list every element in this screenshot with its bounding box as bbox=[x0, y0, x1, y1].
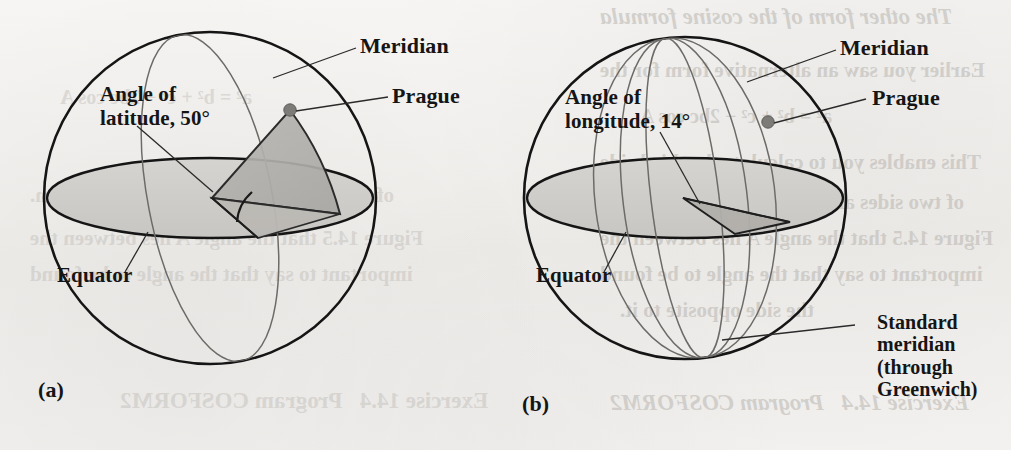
leader-line-meridian-a bbox=[273, 48, 356, 78]
label-prague-b: Prague bbox=[872, 86, 940, 111]
prague-dot-b bbox=[762, 116, 774, 128]
label-angle-longitude-line1-b: Angle of bbox=[565, 86, 690, 110]
sphere-a-group bbox=[44, 23, 388, 373]
label-angle-longitude-b: Angle of longitude, 14° bbox=[565, 86, 690, 133]
globe-diagram-svg bbox=[0, 0, 1011, 450]
label-standard-meridian-line4: Greenwich) bbox=[877, 378, 978, 400]
label-standard-meridian-line2: meridian bbox=[877, 333, 978, 355]
label-meridian-b: Meridian bbox=[840, 36, 929, 61]
label-angle-latitude-line1-a: Angle of bbox=[100, 83, 210, 107]
caption-b: (b) bbox=[522, 392, 549, 417]
prague-dot-a bbox=[284, 104, 296, 116]
sphere-b-group bbox=[524, 27, 866, 369]
label-meridian-a: Meridian bbox=[360, 34, 449, 59]
label-angle-longitude-line2-b: longitude, 14° bbox=[565, 110, 690, 134]
label-standard-meridian-line3: (through bbox=[877, 356, 978, 378]
leader-line-standard-meridian-b bbox=[722, 325, 855, 340]
label-angle-latitude-line2-a: latitude, 50° bbox=[100, 107, 210, 131]
label-equator-b: Equator bbox=[536, 264, 611, 288]
label-prague-a: Prague bbox=[392, 84, 460, 109]
leader-line-prague-b bbox=[774, 99, 866, 123]
label-equator-a: Equator bbox=[57, 264, 132, 288]
label-standard-meridian-line1: Standard bbox=[877, 311, 978, 333]
label-angle-latitude-a: Angle of latitude, 50° bbox=[100, 83, 210, 130]
figure-stage: The other form of the cosine formula Ear… bbox=[0, 0, 1011, 450]
caption-a: (a) bbox=[38, 378, 64, 403]
label-standard-meridian-b: Standard meridian (through Greenwich) bbox=[877, 311, 978, 401]
